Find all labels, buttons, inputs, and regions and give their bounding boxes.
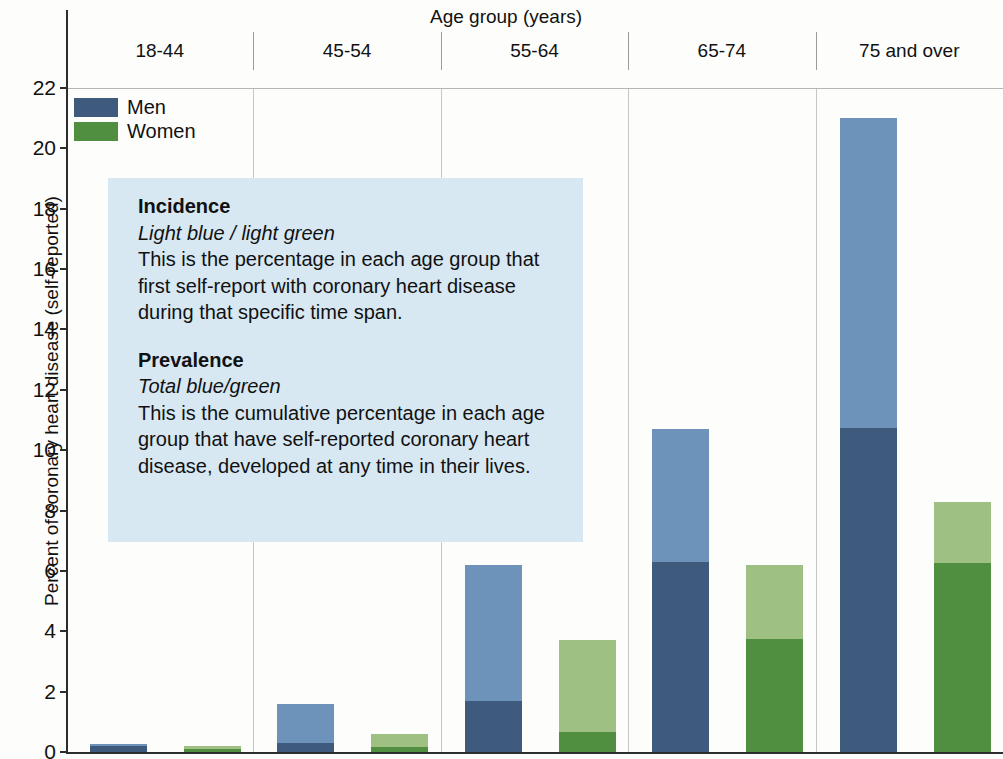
bar-women-45-54 xyxy=(371,734,428,752)
incidence-subheading: Light blue / light green xyxy=(138,220,561,246)
bar-segment-prevalence xyxy=(840,428,897,752)
incidence-heading: Incidence xyxy=(138,194,561,220)
chart-page: Age group (years) 18-4445-5455-6465-7475… xyxy=(0,0,1003,759)
y-tick-mark-14 xyxy=(60,328,68,330)
legend-item-men: Men xyxy=(74,96,196,118)
info-box: Incidence Light blue / light green This … xyxy=(108,178,583,542)
y-tick-mark-22 xyxy=(60,87,68,89)
category-separator-2 xyxy=(441,32,442,70)
y-tick-mark-12 xyxy=(60,389,68,391)
bar-segment-prevalence xyxy=(465,701,522,752)
bar-segment-incidence xyxy=(746,565,803,639)
category-label-4: 65-74 xyxy=(628,32,815,70)
bar-segment-incidence xyxy=(840,118,897,427)
category-label-3: 55-64 xyxy=(441,32,628,70)
prevalence-heading: Prevalence xyxy=(138,348,561,374)
y-tick-mark-18 xyxy=(60,208,68,210)
category-header-band: 18-4445-5455-6465-7475 and over xyxy=(66,32,1003,70)
infobox-spacer xyxy=(138,326,561,348)
x-axis-title: Age group (years) xyxy=(430,6,582,28)
y-tick-mark-10 xyxy=(60,449,68,451)
bar-segment-prevalence xyxy=(277,743,334,752)
category-label-2: 45-54 xyxy=(253,32,440,70)
bar-segment-incidence xyxy=(371,734,428,748)
bar-women-65-74 xyxy=(746,565,803,752)
legend-swatch-icon-women xyxy=(74,122,118,141)
y-tick-mark-8 xyxy=(60,510,68,512)
bar-segment-prevalence xyxy=(652,562,709,752)
bar-segment-incidence xyxy=(934,502,991,564)
legend-item-women: Women xyxy=(74,120,196,142)
y-tick-mark-0 xyxy=(60,751,68,753)
legend-label: Men xyxy=(127,97,166,117)
category-separator-1 xyxy=(253,32,254,70)
bar-segment-prevalence xyxy=(559,732,616,752)
bar-men-55-64 xyxy=(465,565,522,752)
legend-label: Women xyxy=(127,121,196,141)
y-tick-mark-4 xyxy=(60,630,68,632)
category-label-1: 18-44 xyxy=(66,32,253,70)
bar-segment-incidence xyxy=(465,565,522,701)
y-tick-mark-16 xyxy=(60,268,68,270)
y-tick-mark-2 xyxy=(60,691,68,693)
bar-segment-incidence xyxy=(559,640,616,732)
prevalence-body: This is the cumulative percentage in eac… xyxy=(138,400,561,480)
bar-men-75-and-over xyxy=(840,118,897,752)
prevalence-subheading: Total blue/green xyxy=(138,373,561,399)
legend-swatch-icon-men xyxy=(74,98,118,117)
category-separator-4 xyxy=(816,32,817,70)
bar-women-75-and-over xyxy=(934,502,991,753)
y-tick-mark-6 xyxy=(60,570,68,572)
bar-segment-prevalence xyxy=(934,563,991,752)
incidence-body: This is the percentage in each age group… xyxy=(138,246,561,326)
y-tick-mark-20 xyxy=(60,147,68,149)
bar-segment-prevalence xyxy=(746,639,803,752)
bar-men-65-74 xyxy=(652,429,709,752)
bar-segment-incidence xyxy=(652,429,709,562)
bar-segment-incidence xyxy=(277,704,334,743)
bar-men-45-54 xyxy=(277,704,334,752)
y-axis-title-holder: Percent of coronary heart disease (self-… xyxy=(22,0,46,759)
category-separator-3 xyxy=(628,32,629,70)
x-axis-baseline xyxy=(66,752,1003,754)
category-label-5: 75 and over xyxy=(816,32,1003,70)
bar-men-18-44 xyxy=(90,744,147,752)
chart-legend: MenWomen xyxy=(74,96,196,144)
bar-women-55-64 xyxy=(559,640,616,752)
